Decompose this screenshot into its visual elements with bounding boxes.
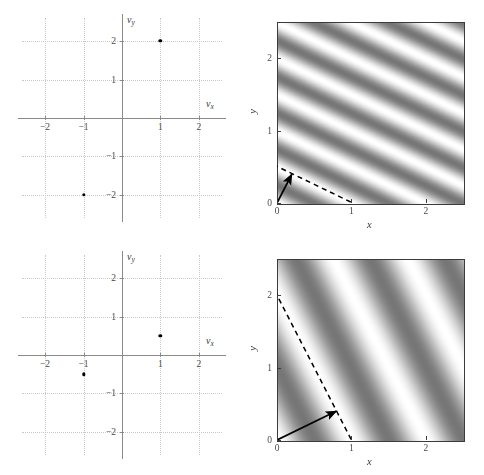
grating-canvas xyxy=(278,260,464,441)
x-tick-mark xyxy=(351,436,352,440)
y-tick-label: −2 xyxy=(106,190,116,200)
axis-label-x: x xyxy=(367,219,372,230)
y-tick-mark xyxy=(120,278,124,279)
y-tick-mark xyxy=(120,317,124,318)
y-tick-label: 2 xyxy=(111,273,116,283)
x-tick-label: 0 xyxy=(275,443,280,453)
spectrum-point xyxy=(82,373,85,376)
axis-label-y: y xyxy=(247,109,258,114)
y-tick-label: −2 xyxy=(106,427,116,437)
x-tick-label: 2 xyxy=(423,206,428,216)
y-tick-mark xyxy=(277,295,281,296)
x-tick-label: −2 xyxy=(40,122,50,132)
x-tick-mark xyxy=(426,199,427,203)
x-tick-mark xyxy=(351,199,352,203)
x-tick-label: 2 xyxy=(197,359,202,369)
spectrum-point xyxy=(159,39,162,42)
figure-canvas: −2−112−2−112 νx νy x y 012012 −2−112−2−1… xyxy=(0,0,484,475)
x-tick-label: 1 xyxy=(349,443,354,453)
y-tick-label: 1 xyxy=(267,126,272,136)
axis-label-y: y xyxy=(247,346,258,351)
x-tick-label: 1 xyxy=(158,359,163,369)
x-tick-mark xyxy=(199,116,200,120)
x-tick-mark xyxy=(84,116,85,120)
y-tick-label: 2 xyxy=(267,53,272,63)
x-tick-label: −1 xyxy=(78,122,88,132)
y-tick-label: 2 xyxy=(267,290,272,300)
grating-plot-top: x y 012012 xyxy=(242,0,484,237)
y-tick-label: −1 xyxy=(106,151,116,161)
grating-image xyxy=(277,259,465,442)
axis-label-nu-y: νy xyxy=(127,251,135,264)
x-tick-mark xyxy=(426,436,427,440)
x-tick-label: −2 xyxy=(40,359,50,369)
y-tick-label: 0 xyxy=(267,198,272,208)
x-tick-label: 1 xyxy=(158,122,163,132)
y-tick-label: −1 xyxy=(106,388,116,398)
spectrum-point xyxy=(82,193,85,196)
y-axis-line xyxy=(122,251,123,459)
y-tick-mark xyxy=(120,156,124,157)
plot-area: −2−112−2−112 xyxy=(22,255,222,455)
x-tick-mark xyxy=(45,116,46,120)
grating-canvas xyxy=(278,23,464,204)
axis-label-nu-y: νy xyxy=(127,14,135,27)
x-tick-mark xyxy=(160,353,161,357)
x-tick-label: 2 xyxy=(197,122,202,132)
grating-image xyxy=(277,22,465,205)
spectrum-plot-top: −2−112−2−112 νx νy xyxy=(0,0,242,237)
y-tick-mark xyxy=(120,80,124,81)
y-axis-line xyxy=(122,14,123,222)
spectrum-plot-bottom: −2−112−2−112 νx νy xyxy=(0,237,242,474)
x-tick-mark xyxy=(160,116,161,120)
spectrum-point xyxy=(159,334,162,337)
y-tick-mark xyxy=(277,440,281,441)
axis-label-nu-x: νx xyxy=(206,98,214,111)
x-tick-label: 0 xyxy=(275,206,280,216)
x-tick-mark xyxy=(45,353,46,357)
y-tick-mark xyxy=(120,41,124,42)
y-tick-label: 0 xyxy=(267,435,272,445)
axis-label-x: x xyxy=(367,456,372,467)
y-tick-label: 2 xyxy=(111,36,116,46)
x-tick-mark xyxy=(84,353,85,357)
y-tick-label: 1 xyxy=(267,363,272,373)
y-tick-label: 1 xyxy=(111,312,116,322)
x-tick-mark xyxy=(199,353,200,357)
y-tick-mark xyxy=(277,203,281,204)
x-tick-label: 2 xyxy=(423,443,428,453)
y-tick-mark xyxy=(277,368,281,369)
y-tick-mark xyxy=(277,131,281,132)
y-tick-mark xyxy=(120,195,124,196)
x-tick-label: −1 xyxy=(78,359,88,369)
x-tick-label: 1 xyxy=(349,206,354,216)
y-tick-label: 1 xyxy=(111,75,116,85)
y-tick-mark xyxy=(277,58,281,59)
grating-plot-bottom: x y 012012 xyxy=(242,237,484,474)
y-tick-mark xyxy=(120,432,124,433)
plot-area: −2−112−2−112 xyxy=(22,18,222,218)
y-tick-mark xyxy=(120,393,124,394)
axis-label-nu-x: νx xyxy=(206,335,214,348)
